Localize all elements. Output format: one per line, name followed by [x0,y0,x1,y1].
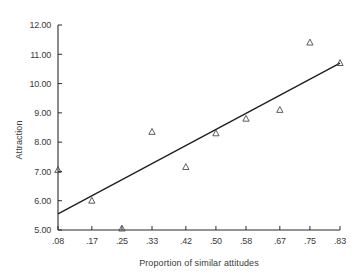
x-tick-label: .67 [274,236,286,246]
data-points [55,39,343,231]
data-point-marker [307,39,313,45]
axes [58,25,340,230]
data-point-marker [243,115,249,121]
y-tick-label: 9.00 [34,108,51,118]
x-tick-label: .75 [304,236,316,246]
y-tick-label: 10.00 [29,79,51,89]
scatter-plot-figure: .08.17.25.33.42.50.58.67.75.83 5.006.007… [0,0,364,276]
x-tick-label: .58 [240,236,252,246]
data-point-marker [337,60,343,66]
x-tick-label: .33 [146,236,158,246]
x-tick-label: .42 [180,236,192,246]
x-axis-tick-labels: .08.17.25.33.42.50.58.67.75.83 [52,236,346,246]
y-tick-label: 7.00 [34,167,51,177]
data-point-marker [183,164,189,170]
x-tick-label: .08 [52,236,64,246]
x-tick-label: .50 [210,236,222,246]
y-tick-label: 8.00 [34,137,51,147]
data-point-marker [89,197,95,203]
y-axis-tick-labels: 5.006.007.008.009.0010.0011.0012.00 [29,20,51,235]
y-tick-label: 6.00 [34,196,51,206]
y-tick-label: 5.00 [34,225,51,235]
y-tick-label: 11.00 [30,50,51,60]
regression-line-path [58,63,340,214]
regression-line [58,63,340,214]
data-point-marker [277,107,283,113]
x-tick-label: .17 [86,236,98,246]
data-point-marker [149,128,155,134]
x-tick-label: .83 [334,236,346,246]
plot-canvas: .08.17.25.33.42.50.58.67.75.83 5.006.007… [0,0,364,276]
x-axis-title: Proportion of similar attitudes [139,258,259,268]
y-axis-title: Attraction [14,120,24,159]
tick-marks [58,25,340,230]
x-tick-label: .25 [116,236,128,246]
y-tick-label: 12.00 [29,20,51,30]
